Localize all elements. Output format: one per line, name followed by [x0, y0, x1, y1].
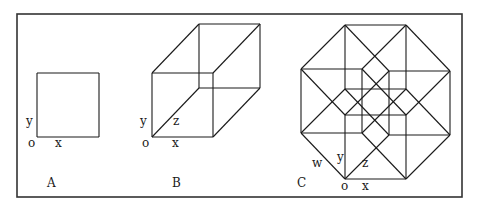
axis-label-origin: o	[341, 179, 348, 193]
edge-w	[406, 25, 450, 71]
axis-label-w: w	[312, 156, 323, 170]
edge-z	[345, 71, 389, 115]
edge-z	[301, 25, 345, 69]
edge-w	[406, 89, 450, 135]
edge-z	[213, 88, 260, 137]
edge-z	[152, 24, 199, 73]
figure-b-cube: yzoxB	[139, 24, 260, 190]
edge-z	[406, 71, 450, 115]
axis-label-z: z	[362, 156, 368, 170]
axis-label-y: y	[139, 114, 147, 128]
axis-label-origin: o	[28, 136, 35, 150]
axis-label-origin: o	[142, 136, 149, 150]
axis-label-y: y	[25, 114, 33, 128]
figure-caption-b: B	[172, 176, 181, 190]
figure-a-square: yoxA	[25, 73, 99, 190]
edge-z	[301, 89, 345, 133]
edge-z	[362, 25, 406, 69]
axis-label-x: x	[362, 179, 369, 193]
figure-caption-c: C	[297, 176, 306, 190]
dimension-diagram: yoxA yzoxB wyzoxC	[0, 0, 482, 205]
edge-z	[152, 88, 199, 137]
axis-label-x: x	[55, 136, 62, 150]
figure-c-tesseract: wyzoxC	[297, 25, 450, 193]
figure-caption-a: A	[46, 176, 56, 190]
edge-w	[301, 69, 345, 115]
edge-z	[406, 135, 450, 179]
edge-z	[362, 89, 406, 133]
axis-label-x: x	[172, 136, 179, 150]
diagram-frame	[17, 14, 462, 197]
axis-label-z: z	[173, 114, 179, 128]
edge-z	[213, 24, 260, 73]
axis-label-y: y	[336, 150, 344, 164]
